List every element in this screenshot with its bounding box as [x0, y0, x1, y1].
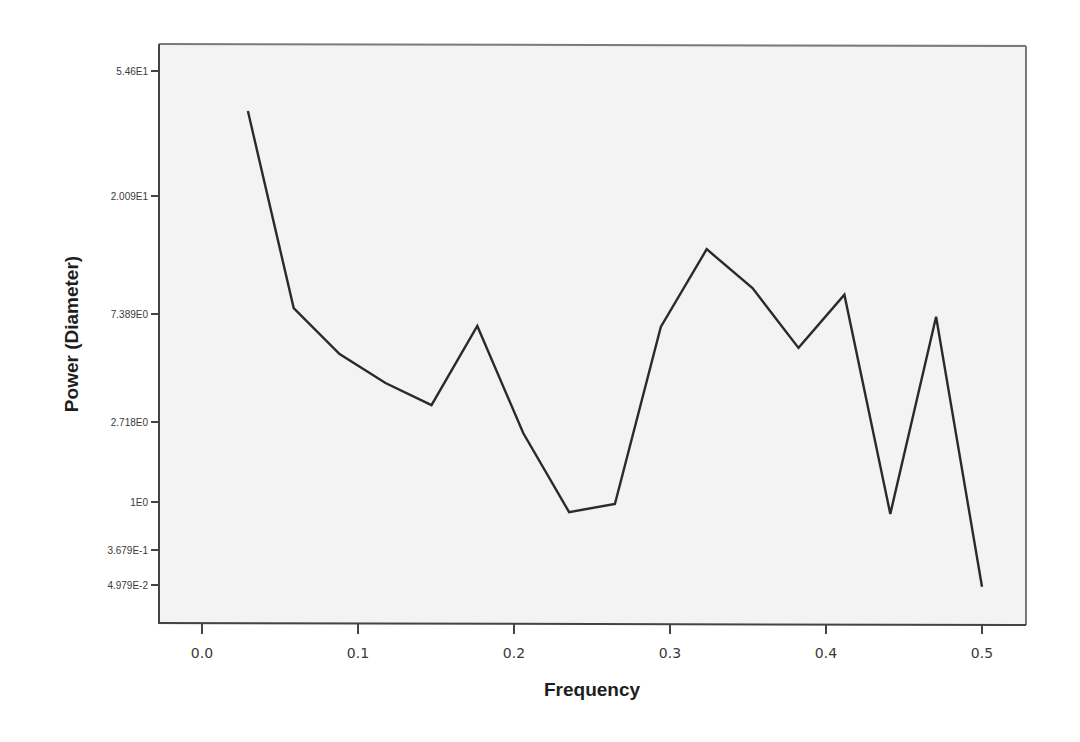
x-axis-ticks: 0.00.10.20.30.40.5: [191, 624, 993, 661]
plot-area: [159, 44, 1026, 625]
x-tick-label: 0.3: [659, 645, 681, 661]
x-tick-label: 0.1: [347, 645, 369, 661]
y-tick-label: 5.46E1: [116, 66, 148, 77]
x-tick-label: 0.2: [503, 645, 525, 661]
y-tick-label: 1E0: [130, 497, 148, 508]
y-tick-label: 2.718E0: [111, 417, 149, 428]
periodogram-chart: 5.46E12.009E17.389E02.718E01E03.679E-14.…: [0, 0, 1080, 742]
y-axis-ticks: 5.46E12.009E17.389E02.718E01E03.679E-14.…: [107, 66, 159, 591]
x-tick-label: 0.5: [971, 645, 993, 661]
y-tick-label: 3.679E-1: [107, 545, 148, 556]
y-axis-title: Power (Diameter): [61, 256, 82, 412]
x-axis-title: Frequency: [544, 679, 641, 700]
y-tick-label: 2.009E1: [111, 191, 149, 202]
x-tick-label: 0.4: [815, 645, 837, 661]
y-tick-label: 7.389E0: [111, 309, 149, 320]
y-tick-label: 4.979E-2: [107, 580, 148, 591]
x-tick-label: 0.0: [191, 645, 213, 661]
